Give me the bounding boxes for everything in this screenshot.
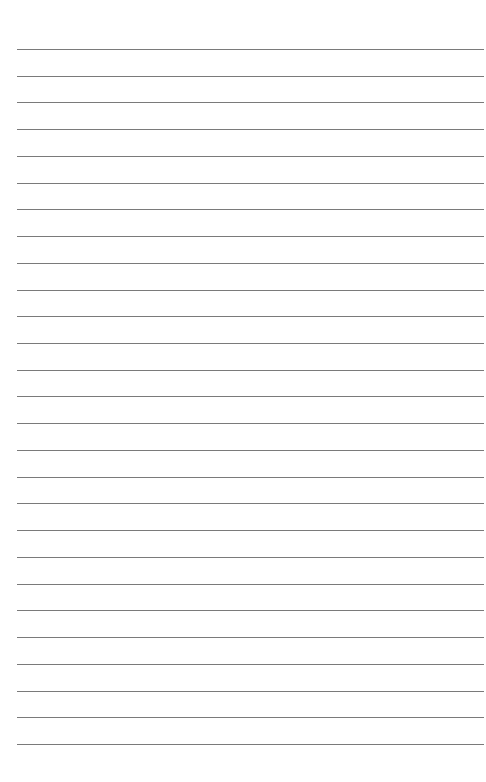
ruled-line (17, 450, 484, 451)
ruled-line (17, 209, 484, 210)
ruled-line (17, 236, 484, 237)
ruled-line (17, 49, 484, 50)
ruled-line (17, 370, 484, 371)
ruled-line (17, 76, 484, 77)
ruled-line (17, 503, 484, 504)
ruled-line (17, 316, 484, 317)
ruled-line (17, 664, 484, 665)
ruled-line (17, 637, 484, 638)
lined-paper-page (0, 0, 486, 782)
ruled-line (17, 477, 484, 478)
ruled-line (17, 129, 484, 130)
ruled-line (17, 610, 484, 611)
ruled-line (17, 423, 484, 424)
ruled-line (17, 557, 484, 558)
ruled-line (17, 530, 484, 531)
ruled-line (17, 343, 484, 344)
ruled-line (17, 396, 484, 397)
ruled-line (17, 102, 484, 103)
ruled-line (17, 584, 484, 585)
ruled-line (17, 156, 484, 157)
ruled-line (17, 290, 484, 291)
ruled-line (17, 183, 484, 184)
ruled-line (17, 744, 484, 745)
ruled-line (17, 263, 484, 264)
ruled-line (17, 717, 484, 718)
ruled-line (17, 691, 484, 692)
